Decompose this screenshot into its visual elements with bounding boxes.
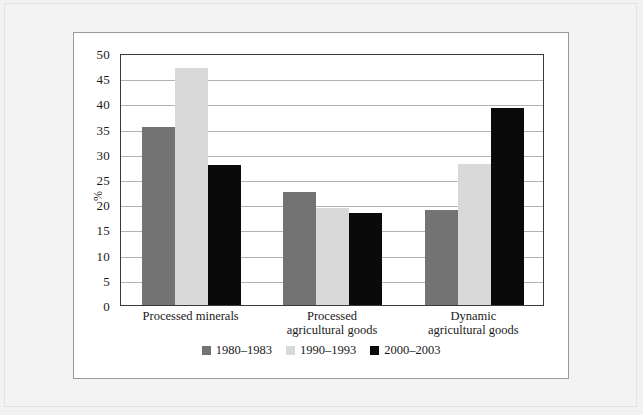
legend-label: 2000–2003 xyxy=(384,344,440,357)
bar-group xyxy=(283,55,382,305)
legend-label: 1980–1983 xyxy=(216,344,272,357)
bars-layer xyxy=(121,55,543,305)
legend-item: 1980–1983 xyxy=(202,344,272,357)
x-axis-label-line: agricultural goods xyxy=(261,323,402,337)
y-axis-tick-label: 15 xyxy=(96,224,110,237)
legend-label: 1990–1993 xyxy=(300,344,356,357)
y-axis-tick-label: 45 xyxy=(96,73,110,86)
bar xyxy=(425,210,458,305)
bar xyxy=(491,108,524,305)
plot-area xyxy=(120,54,544,306)
chart-panel: % 05101520253035404550 Processed mineral… xyxy=(73,32,569,379)
y-axis-tick-label: 50 xyxy=(96,48,110,61)
bar xyxy=(316,208,349,305)
x-axis-label: Processedagricultural goods xyxy=(261,309,402,337)
x-axis-label-line: Dynamic xyxy=(403,309,544,323)
legend-swatch xyxy=(286,346,295,355)
y-axis-tick-label: 5 xyxy=(103,274,110,287)
y-axis-tick-labels: 05101520253035404550 xyxy=(74,54,116,306)
y-axis-tick-label: 0 xyxy=(103,300,110,313)
x-axis-label: Processed minerals xyxy=(120,309,261,323)
chart-legend: 1980–19831990–19932000–2003 xyxy=(74,344,568,357)
y-axis-tick-label: 30 xyxy=(96,148,110,161)
legend-swatch xyxy=(370,346,379,355)
legend-swatch xyxy=(202,346,211,355)
y-axis-tick-label: 40 xyxy=(96,98,110,111)
x-axis-label-line: Processed xyxy=(261,309,402,323)
bar xyxy=(175,68,208,305)
bar xyxy=(458,164,491,305)
bar xyxy=(349,213,382,305)
chart-page: % 05101520253035404550 Processed mineral… xyxy=(0,0,643,415)
bar xyxy=(283,192,316,305)
x-axis-label-line: Processed minerals xyxy=(120,309,261,323)
bar xyxy=(142,127,175,305)
bar-group xyxy=(142,55,241,305)
x-axis-label: Dynamicagricultural goods xyxy=(403,309,544,337)
y-axis-tick-label: 35 xyxy=(96,123,110,136)
y-axis-tick-label: 20 xyxy=(96,199,110,212)
bar xyxy=(208,165,241,305)
bar-group xyxy=(425,55,524,305)
legend-item: 1990–1993 xyxy=(286,344,356,357)
y-axis-tick-label: 25 xyxy=(96,174,110,187)
y-axis-tick-label: 10 xyxy=(96,249,110,262)
x-axis-label-line: agricultural goods xyxy=(403,323,544,337)
legend-item: 2000–2003 xyxy=(370,344,440,357)
